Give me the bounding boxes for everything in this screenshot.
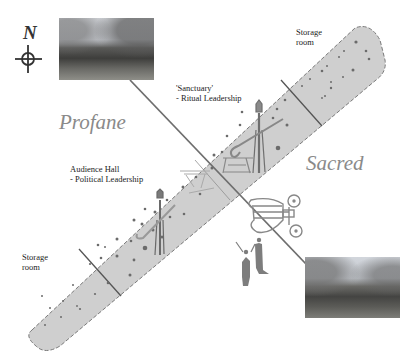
label-line: 'Sanctuary'	[176, 83, 242, 93]
zone-label-profane: Profane	[59, 110, 126, 135]
label-audience-hall: Audience Hall - Political Leadership	[70, 164, 143, 184]
photo-stone-ruin-southeast	[305, 257, 400, 318]
label-line: Storage	[22, 252, 48, 262]
label-storage-room-sw: Storage room	[22, 252, 48, 272]
label-line: - Political Leadership	[70, 174, 143, 184]
compass-rose-icon	[15, 45, 42, 73]
human-figures	[236, 238, 269, 286]
zone-label-sacred: Sacred	[306, 151, 364, 176]
label-line: Audience Hall	[70, 164, 143, 174]
ship-sunwheel-figure	[249, 195, 302, 237]
label-sanctuary: 'Sanctuary' - Ritual Leadership	[176, 83, 242, 103]
label-line: room	[296, 37, 322, 47]
north-label: N	[23, 22, 37, 44]
label-line: Storage	[296, 27, 322, 37]
label-storage-room-ne: Storage room	[296, 27, 322, 47]
label-line: - Ritual Leadership	[176, 93, 242, 103]
photo-stone-ruin-northwest	[59, 18, 154, 80]
label-line: room	[22, 262, 48, 272]
